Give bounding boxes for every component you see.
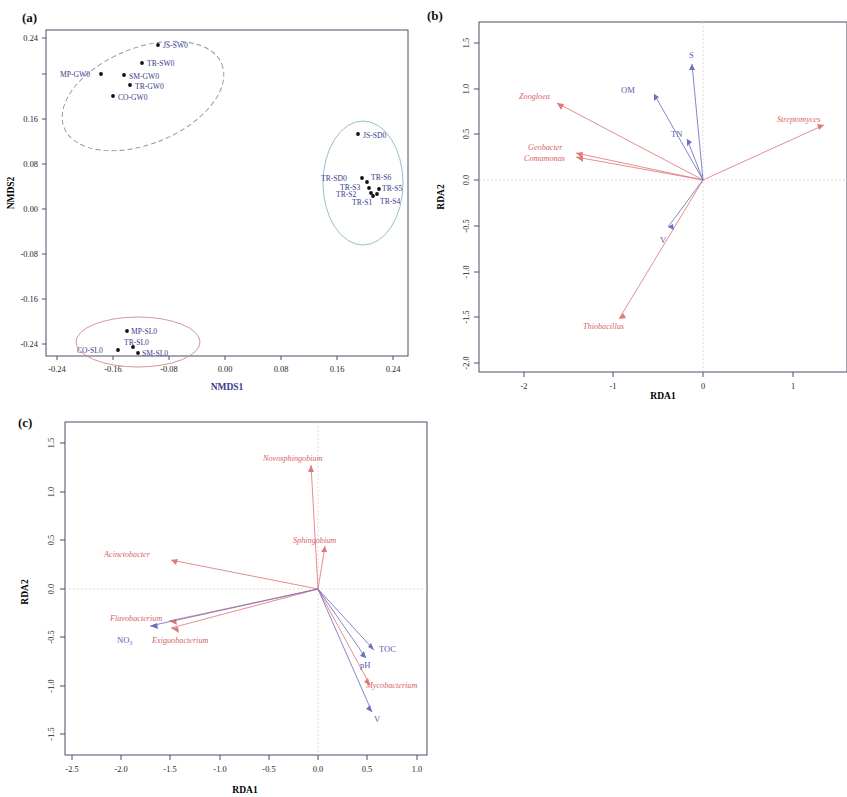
x-tick-a-5: 0.16	[330, 365, 345, 374]
x-tick-b-1: -1	[610, 382, 617, 391]
arrow-ph	[318, 589, 366, 658]
species-arrows-b	[557, 103, 824, 319]
point-marker	[365, 180, 369, 184]
arrowhead-streptomyces	[817, 124, 824, 130]
point-label-sm-gw0: SM-GW0	[129, 72, 159, 81]
point-label-co-sl0: CO-SL0	[77, 346, 103, 355]
point-marker	[136, 351, 140, 355]
point-label-tr-sw0: TR-SW0	[147, 59, 175, 68]
y-tick-a-2: -0.08	[21, 250, 38, 259]
point-label-tr-s1: TR-S1	[352, 198, 372, 207]
arrow-geobacter	[576, 153, 703, 180]
panel-c-plot: -2.5 -2.0 -1.5 -1.0 -0.5 0.0 0.5 1.0 -1.…	[0, 400, 460, 797]
point-marker	[375, 192, 379, 196]
y-tick-c-3: 0.0	[47, 584, 56, 594]
y-tick-c-1: -1.0	[47, 679, 56, 692]
y-axis-title-a: NMDS2	[6, 176, 16, 209]
point-label-tr-gw0: TR-GW0	[135, 82, 164, 91]
environment-arrows-b	[654, 64, 703, 230]
species-label-acinetobacter: Acinetobacter	[103, 550, 151, 559]
arrowhead-thiobacillus	[619, 313, 626, 319]
y-axis-title-b: RDA2	[436, 184, 446, 210]
x-tick-c-1: -2.0	[114, 765, 127, 774]
point-label-tr-s5: TR-S5	[382, 184, 402, 193]
arrow-v	[668, 180, 703, 227]
point-label-mp-sl0: MP-SL0	[131, 327, 157, 336]
point-label-mp-gw0: MP-GW0	[60, 70, 90, 79]
y-tick-b-4: 0.0	[462, 175, 471, 185]
x-axis-c: -2.5 -2.0 -1.5 -1.0 -0.5 0.0 0.5 1.0	[65, 755, 422, 774]
point-marker	[99, 72, 103, 76]
y-tick-b-7: 1.5	[462, 38, 471, 48]
panel-b: (b) -2 -1 0 1	[424, 0, 847, 400]
x-tick-a-6: 0.24	[386, 365, 401, 374]
arrowhead-novosphingobium	[308, 465, 314, 472]
point-label-js-sw0: JS-SW0	[163, 41, 188, 50]
env-label-v-c: V	[374, 714, 381, 724]
point-marker	[116, 348, 120, 352]
arrowhead-ph	[360, 651, 366, 658]
y-axis-title-c: RDA2	[20, 579, 30, 605]
panel-a-label: (a)	[22, 10, 37, 26]
arrow-thiobacillus	[619, 180, 703, 319]
x-tick-c-7: 1.0	[412, 765, 422, 774]
env-label-ph: pH	[360, 660, 371, 670]
points-group-a: JS-SW0 TR-SW0 MP-GW0 SM-GW0 TR-GW0 CO-GW…	[60, 41, 188, 102]
arrow-comamonas	[576, 157, 703, 180]
point-marker	[360, 176, 364, 180]
x-tick-a-1: -0.16	[104, 365, 121, 374]
point-marker	[356, 132, 360, 136]
species-label-flavobacterium: Flavobacterium	[109, 614, 162, 623]
species-label-sphingobium: Sphingobium	[293, 536, 336, 545]
arrowhead-v-c	[366, 705, 372, 712]
species-label-exiguobacterium: Exiguobacterium	[151, 636, 208, 645]
x-tick-c-5: 0.0	[313, 765, 323, 774]
y-tick-a-3: 0.00	[23, 205, 38, 214]
arrow-sphingobium	[318, 546, 325, 589]
x-axis-title-c: RDA1	[232, 785, 258, 795]
x-tick-c-6: 0.5	[362, 765, 372, 774]
env-label-s: S	[689, 50, 694, 60]
arrow-acinetobacter	[171, 560, 318, 589]
x-tick-b-0: -2	[521, 382, 528, 391]
point-marker	[140, 61, 144, 65]
point-label-tr-s4: TR-S4	[380, 197, 400, 206]
point-label-sm-sl0: SM-SL0	[142, 349, 168, 358]
arrow-v-c	[318, 589, 372, 712]
env-label-toc: TOC	[379, 644, 396, 654]
arrow-tn	[687, 139, 703, 180]
y-tick-c-0: -1.5	[47, 727, 56, 740]
y-tick-c-2: -0.5	[47, 630, 56, 643]
species-label-novosphingobium: Novosphingobium	[262, 454, 323, 463]
panel-b-label: (b)	[427, 8, 443, 24]
env-label-no3: NO₃	[117, 635, 132, 645]
panel-c: (c) -2.5 -2.0 -1.5 -1.0 -0.5 0.0 0.5	[0, 400, 460, 797]
point-marker	[367, 186, 371, 190]
x-axis-a: -0.24 -0.16 -0.08 0.00 0.08 0.16 0.24	[48, 356, 401, 374]
point-label-tr-sd0: TR-SD0	[321, 174, 347, 183]
y-tick-a-0: -0.24	[21, 340, 39, 349]
x-tick-a-4: 0.08	[274, 365, 289, 374]
y-axis-c: -1.5 -1.0 -0.5 0.0 0.5 1.0 1.5	[47, 438, 65, 741]
env-label-v: V	[660, 235, 667, 245]
point-label-js-sd0: JS-SD0	[363, 131, 386, 140]
y-tick-c-5: 1.0	[47, 487, 56, 497]
arrowhead-no3	[150, 623, 158, 629]
point-marker	[156, 43, 160, 47]
env-label-om: OM	[621, 85, 635, 95]
arrowhead-sphingobium	[321, 546, 327, 552]
point-marker	[377, 187, 381, 191]
arrow-exiguobacterium	[171, 589, 318, 628]
x-tick-b-3: 1	[791, 382, 795, 391]
arrowhead-om	[654, 94, 659, 101]
arrowhead-acinetobacter	[171, 559, 178, 565]
y-tick-a-5: 0.16	[23, 115, 38, 124]
y-tick-a-6: 0.24	[23, 34, 38, 43]
x-tick-a-2: -0.08	[160, 365, 177, 374]
x-axis-b: -2 -1 0 1	[521, 372, 796, 391]
panel-a-plot: -0.24 -0.16 -0.08 0.00 0.08 0.16 0.24 -0…	[0, 0, 424, 400]
panel-b-plot: -2 -1 0 1 -2.0 -1.5 -1.0 -0.5 0.0 0.5	[424, 0, 847, 400]
arrowhead-s	[689, 64, 695, 70]
arrow-no3	[150, 589, 318, 626]
x-axis-title-b: RDA1	[650, 391, 676, 400]
